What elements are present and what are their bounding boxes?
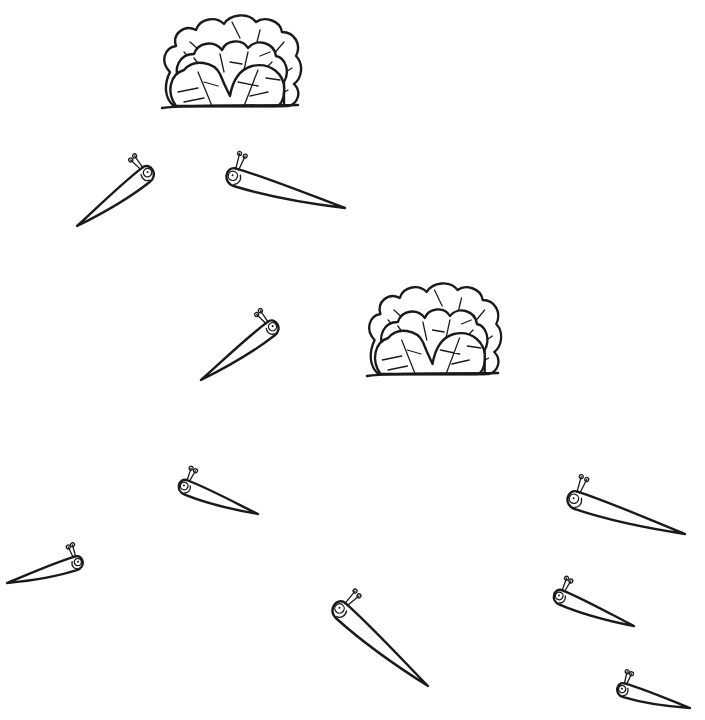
slug-icon xyxy=(328,585,445,693)
lettuce-bush-icon xyxy=(162,15,301,108)
slug-icon xyxy=(224,150,352,217)
slug-icon xyxy=(565,473,693,543)
slug-layer xyxy=(1,150,695,715)
slug-icon xyxy=(1,541,84,589)
lettuce-bush-icon xyxy=(367,283,501,376)
slug-icon xyxy=(187,306,281,387)
slug-icon xyxy=(615,668,695,714)
slug-icon xyxy=(63,151,158,233)
slug-icon xyxy=(551,574,642,632)
illustration-canvas xyxy=(0,0,705,720)
bush-layer xyxy=(162,15,501,376)
slug-icon xyxy=(177,464,266,520)
